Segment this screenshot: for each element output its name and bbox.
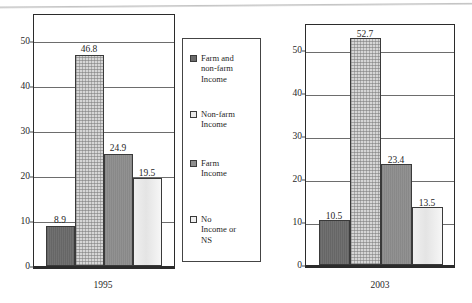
baseline-left [34, 266, 174, 268]
bar-label-1995-non-farm: 46.8 [81, 45, 98, 55]
legend-swatch-farm [190, 160, 197, 167]
legend-label-farm: Farm Income [201, 158, 227, 179]
plot-area-2003 [305, 24, 455, 268]
ytick-label-left-50: 50 [10, 37, 30, 47]
legend-item-non-farm[interactable]: Non-farm Income [190, 109, 258, 130]
gridline-left-40 [34, 87, 174, 88]
legend-label-non-farm: Non-farm Income [201, 109, 235, 130]
bar-label-2003-non-farm: 52.7 [357, 30, 374, 40]
chart-legend: Farm and non-farm Income Non-farm Income… [182, 38, 261, 262]
plot-area-1995 [33, 14, 175, 269]
ytick-label-right-30: 30 [282, 132, 302, 142]
legend-swatch-no-income-or-ns [190, 216, 197, 223]
ytick-label-left-40: 40 [10, 82, 30, 92]
ytick-label-left-20: 20 [10, 172, 30, 182]
bar-label-2003-farm: 23.4 [388, 156, 405, 166]
bar-1995-farm-and-non-farm[interactable] [46, 226, 75, 266]
bar-2003-non-farm[interactable] [350, 38, 381, 265]
bar-label-2003-no-income-or-ns: 13.5 [419, 199, 436, 209]
bar-1995-no-income-or-ns[interactable] [133, 178, 162, 266]
legend-item-farm-and-non-farm[interactable]: Farm and non-farm Income [190, 53, 258, 84]
bar-2003-farm[interactable] [381, 164, 412, 265]
bar-label-1995-farm-and-non-farm: 8.9 [54, 216, 66, 226]
bar-2003-no-income-or-ns[interactable] [412, 207, 443, 265]
bar-1995-non-farm[interactable] [75, 55, 104, 266]
gridline-left-30 [34, 132, 174, 133]
ytick-label-right-0: 0 [282, 261, 302, 271]
ytick-label-right-10: 10 [282, 218, 302, 228]
bar-label-2003-farm-and-non-farm: 10.5 [326, 212, 343, 222]
ytick-label-right-50: 50 [282, 46, 302, 56]
baseline-right [306, 265, 454, 267]
bar-2003-farm-and-non-farm[interactable] [319, 220, 350, 265]
legend-item-farm[interactable]: Farm Income [190, 158, 258, 179]
gridline-left-50 [34, 42, 174, 43]
legend-swatch-non-farm [190, 111, 197, 118]
legend-swatch-farm-and-non-farm [190, 55, 197, 62]
ytick-label-right-40: 40 [282, 89, 302, 99]
bar-label-1995-no-income-or-ns: 19.5 [139, 169, 156, 179]
legend-label-no-income-or-ns: No Income or NS [201, 214, 236, 245]
category-label-1995: 1995 [94, 281, 113, 291]
legend-label-farm-and-non-farm: Farm and non-farm Income [201, 53, 234, 84]
chart-panel-2003: 50 40 30 20 10 0 10.5 52.7 23.4 13.5 200… [272, 0, 472, 303]
ytick-label-left-10: 10 [10, 217, 30, 227]
ytick-label-left-30: 30 [10, 127, 30, 137]
chart-panel-1995: 50 40 30 20 10 0 8.9 46.8 24.9 19.5 1995 [0, 0, 182, 303]
ytick-label-left-0: 0 [10, 262, 30, 272]
bar-label-1995-farm: 24.9 [110, 144, 127, 154]
ytick-label-right-20: 20 [282, 175, 302, 185]
legend-item-no-income-or-ns[interactable]: No Income or NS [190, 214, 258, 245]
category-label-2003: 2003 [371, 281, 390, 291]
bar-1995-farm[interactable] [104, 154, 133, 266]
